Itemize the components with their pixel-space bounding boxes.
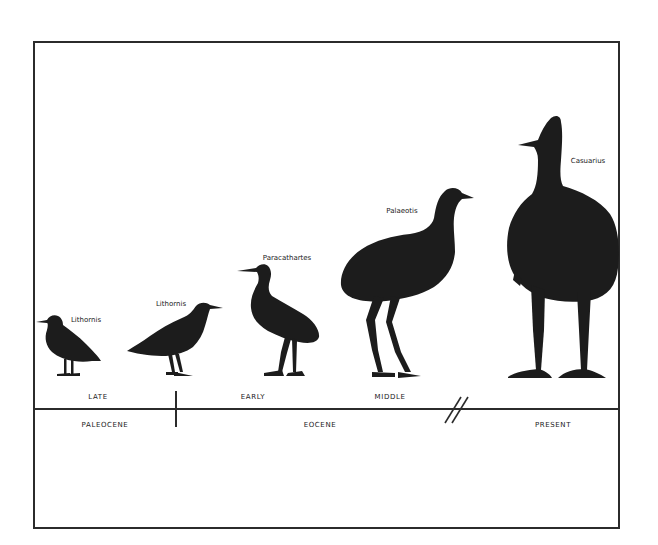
- time-break-icon: [445, 397, 468, 423]
- lithornis-silhouette-1: [36, 315, 101, 376]
- epoch-label-present: PRESENT: [535, 421, 571, 429]
- lithornis-silhouette-2: [127, 303, 223, 376]
- species-label-paracathartes: Paracathartes: [263, 254, 312, 262]
- subepoch-label-late: LATE: [88, 393, 107, 401]
- species-label-palaeotis: Palaeotis: [386, 207, 417, 215]
- species-label-lithornis-1: Lithornis: [71, 316, 101, 324]
- bird-silhouettes: [0, 0, 658, 545]
- species-label-casuarius: Casuarius: [571, 157, 605, 165]
- species-label-lithornis-2: Lithornis: [156, 300, 186, 308]
- subepoch-label-middle: MIDDLE: [375, 393, 406, 401]
- palaeotis-silhouette: [341, 188, 474, 378]
- paracathartes-silhouette: [237, 264, 319, 376]
- subepoch-label-early: EARLY: [241, 393, 265, 401]
- epoch-label-eocene: EOCENE: [304, 421, 337, 429]
- epoch-label-paleocene: PALEOCENE: [82, 421, 129, 429]
- casuarius-silhouette: [507, 116, 619, 378]
